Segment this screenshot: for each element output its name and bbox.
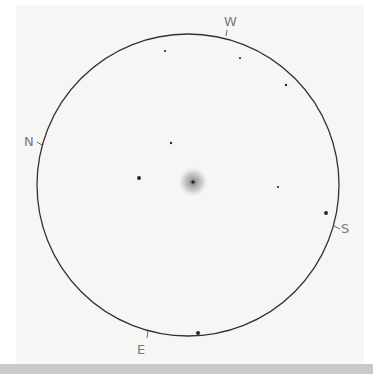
- east-tick: [147, 331, 148, 338]
- north-tick: [37, 142, 42, 145]
- label-north: N: [24, 135, 34, 148]
- star: [239, 57, 241, 59]
- west-tick: [226, 30, 227, 36]
- galaxy-core: [191, 180, 194, 183]
- star: [196, 331, 200, 335]
- star: [285, 84, 287, 86]
- label-east: E: [137, 343, 145, 356]
- star-field: [137, 50, 328, 335]
- label-west: W: [224, 15, 237, 28]
- label-south: S: [341, 222, 349, 235]
- star: [170, 142, 172, 144]
- eyepiece-field: [0, 0, 373, 374]
- star: [324, 211, 328, 215]
- star: [164, 50, 166, 52]
- south-tick: [334, 226, 340, 229]
- star: [277, 186, 279, 188]
- star: [137, 176, 141, 180]
